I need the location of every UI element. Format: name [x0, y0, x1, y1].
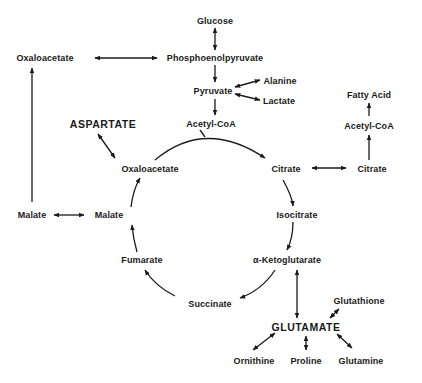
arrow-isocitrate-akg [287, 222, 293, 250]
node-isocitrate: Isocitrate [276, 210, 317, 220]
arrow-citrate-isocitrate [283, 180, 293, 206]
node-phosphoenolpyruvate: Phosphoenolpyruvate [167, 53, 263, 63]
arrow-glutathione-glutamate [330, 309, 339, 318]
node-acetyl-coa: Acetyl-CoA [186, 119, 236, 129]
arrow-pyruvate-alanine [235, 80, 260, 87]
node-malate-cycle: Malate [95, 210, 124, 220]
node-fatty-acid: Fatty Acid [347, 90, 391, 100]
node-citrate-cytosol: Citrate [357, 164, 386, 174]
arrow-oxaloacetate-citrate [155, 138, 265, 160]
node-proline: Proline [290, 356, 321, 366]
node-succinate: Succinate [188, 299, 231, 309]
node-aspartate: ASPARTATE [70, 118, 136, 130]
arrow-succinate-fumarate [145, 270, 175, 296]
node-glutathione: Glutathione [333, 296, 384, 306]
node-glutamine: Glutamine [339, 356, 384, 366]
node-citrate-cycle: Citrate [271, 164, 300, 174]
arrow-malate-oxaloacetate [131, 178, 140, 207]
metabolic-pathway-diagram: Glucose Phosphoenolpyruvate Oxaloacetate… [0, 0, 422, 383]
arrow-glutamate-ornithine [253, 333, 275, 350]
node-acetyl-coa-cytosol: Acetyl-CoA [344, 121, 394, 131]
arrow-aspartate-oxaloacetate [98, 134, 115, 158]
node-oxaloacetate-cytosol: Oxaloacetate [16, 53, 73, 63]
node-glutamate: GLUTAMATE [272, 321, 341, 333]
node-alpha-ketoglutarate: α-Ketoglutarate [253, 255, 321, 265]
node-oxaloacetate-cycle: Oxaloacetate [121, 164, 178, 174]
node-fumarate: Fumarate [121, 255, 162, 265]
node-glucose: Glucose [197, 16, 233, 26]
node-ornithine: Ornithine [234, 356, 275, 366]
arrow-fumarate-malate [132, 225, 137, 252]
node-pyruvate: Pyruvate [194, 86, 233, 96]
node-lactate: Lactate [263, 96, 295, 106]
arrow-pyruvate-lactate [235, 94, 260, 100]
node-alanine: Alanine [263, 76, 296, 86]
node-malate-cytosol: Malate [18, 210, 47, 220]
arrow-akg-succinate [240, 270, 275, 298]
arrow-glutamate-glutamine [337, 334, 352, 348]
